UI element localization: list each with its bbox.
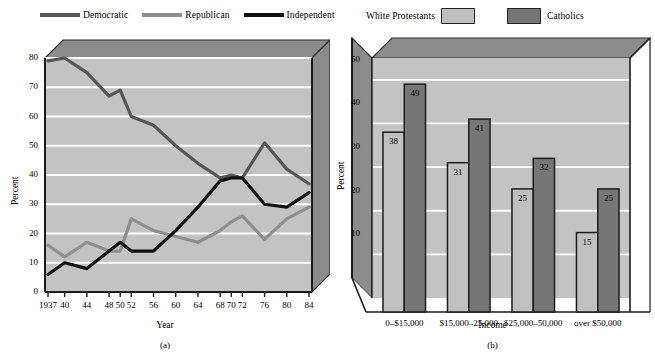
bar-value-label: 25	[600, 193, 616, 203]
x-axis-tick-a: 40	[60, 300, 69, 310]
chart-panel-party-identification: Democratic Republican Independent Percen…	[0, 0, 330, 355]
x-axis-tick-a: 84	[305, 300, 314, 310]
figure-container: Democratic Republican Independent Percen…	[0, 0, 655, 355]
panel-caption-b: (b)	[330, 340, 655, 350]
legend-line-swatch-independent	[244, 13, 284, 17]
legend-item-democratic: Democratic	[40, 10, 128, 20]
y-axis-tick-a: 30	[16, 198, 38, 208]
y-axis-tick-a: 70	[16, 81, 38, 91]
x-axis-tick-a: 56	[149, 300, 158, 310]
x-axis-tick-a: 70	[227, 300, 236, 310]
y-axis-tick-b: 50	[338, 54, 360, 64]
bar-value-label: 41	[471, 123, 487, 133]
bar-plot-area	[330, 16, 655, 336]
y-axis-tick-b: 20	[338, 185, 360, 195]
bar-value-label: 15	[579, 237, 595, 247]
y-axis-tick-b: 30	[338, 141, 360, 151]
x-axis-tick-a: 52	[127, 300, 136, 310]
legend-label-republican: Republican	[185, 10, 229, 20]
y-axis-tick-a: 20	[16, 228, 38, 238]
x-axis-category-label: over $50,000	[574, 318, 622, 328]
x-axis-tick-a: 80	[282, 300, 291, 310]
chart-panel-income-by-religion: White Protestants Catholics Percent Inco…	[330, 0, 655, 355]
legend-line-chart: Democratic Republican Independent	[40, 10, 349, 20]
bar-value-label: 31	[450, 167, 466, 177]
legend-label-democratic: Democratic	[83, 10, 128, 20]
x-axis-tick-a: 1937	[39, 300, 57, 310]
x-axis-tick-a: 50	[116, 300, 125, 310]
y-axis-tick-a: 0	[16, 286, 38, 296]
x-axis-category-label: 0–$15,000	[385, 318, 423, 328]
x-axis-title-a: Year	[0, 320, 330, 330]
x-axis-tick-a: 72	[238, 300, 247, 310]
x-axis-tick-a: 64	[193, 300, 202, 310]
x-axis-category-label: $25,000–50,000	[504, 318, 563, 328]
bar-value-label: 25	[515, 193, 531, 203]
x-axis-tick-a: 44	[82, 300, 91, 310]
legend-item-republican: Republican	[142, 10, 229, 20]
legend-line-swatch-republican	[142, 13, 182, 17]
y-axis-tick-a: 60	[16, 111, 38, 121]
x-axis-tick-a: 76	[260, 300, 269, 310]
legend-item-independent: Independent	[244, 10, 335, 20]
x-axis-tick-a: 68	[216, 300, 225, 310]
legend-line-swatch-democratic	[40, 13, 80, 17]
x-axis-tick-a: 48	[105, 300, 114, 310]
y-axis-tick-a: 10	[16, 257, 38, 267]
legend-label-independent: Independent	[287, 10, 335, 20]
y-axis-tick-a: 50	[16, 140, 38, 150]
x-axis-category-label: $15,000–25,000	[440, 318, 499, 328]
bar-value-label: 38	[386, 136, 402, 146]
y-axis-tick-b: 10	[338, 228, 360, 238]
y-axis-tick-b: 40	[338, 97, 360, 107]
y-axis-tick-a: 80	[16, 52, 38, 62]
panel-caption-a: (a)	[0, 340, 330, 350]
y-axis-tick-a: 40	[16, 169, 38, 179]
x-axis-tick-a: 60	[171, 300, 180, 310]
bar-value-label: 32	[536, 162, 552, 172]
bar-value-label: 49	[407, 88, 423, 98]
